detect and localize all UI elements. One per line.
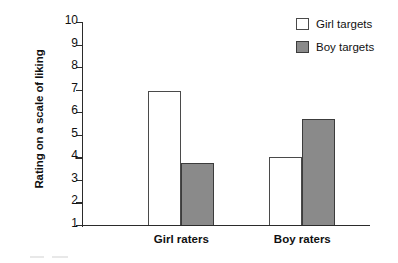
y-tick-label: 8 <box>54 59 78 71</box>
y-tick-label: 10 <box>54 14 78 26</box>
y-tick-label: 4 <box>54 149 78 161</box>
y-tick-label: 7 <box>54 82 78 94</box>
legend-swatch-icon <box>296 18 309 30</box>
legend: Girl targetsBoy targets <box>296 15 374 61</box>
x-axis-label-boy-raters: Boy raters <box>274 233 331 245</box>
x-axis-line <box>82 225 370 226</box>
y-axis-title: Rating on a scale of liking <box>33 19 45 219</box>
bar-chart: Rating on a scale of liking 12345678910 … <box>0 0 398 263</box>
y-tick-label: 2 <box>54 194 78 206</box>
y-tick-label: 3 <box>54 172 78 184</box>
legend-swatch-icon <box>296 41 309 53</box>
page-artifact <box>30 252 70 260</box>
bar-girl-raters-girl-targets <box>148 91 181 225</box>
legend-label: Girl targets <box>316 18 372 30</box>
y-tick-label: 6 <box>54 104 78 116</box>
x-axis-label-girl-raters: Girl raters <box>154 233 209 245</box>
legend-label: Boy targets <box>316 41 374 53</box>
bar-girl-raters-boy-targets <box>181 163 214 225</box>
y-tick-label: 5 <box>54 127 78 139</box>
legend-item-girl-targets: Girl targets <box>296 15 374 33</box>
y-tick-label: 1 <box>54 217 78 229</box>
y-axis-line <box>82 22 83 227</box>
bar-boy-raters-girl-targets <box>269 157 302 225</box>
bar-boy-raters-boy-targets <box>302 119 335 225</box>
legend-item-boy-targets: Boy targets <box>296 38 374 56</box>
y-tick-label: 9 <box>54 37 78 49</box>
